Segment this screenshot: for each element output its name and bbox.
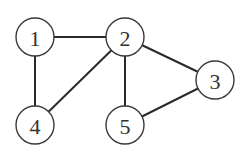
node-label: 2 xyxy=(120,26,131,51)
node-label: 1 xyxy=(30,26,41,51)
node-2: 2 xyxy=(106,18,144,56)
graph-diagram: 1 2 3 4 5 xyxy=(0,0,252,145)
node-label: 4 xyxy=(30,114,41,139)
node-4: 4 xyxy=(16,106,54,144)
node-1: 1 xyxy=(16,18,54,56)
node-5: 5 xyxy=(106,106,144,144)
node-3: 3 xyxy=(196,61,234,99)
node-label: 3 xyxy=(210,69,221,94)
node-label: 5 xyxy=(120,114,131,139)
